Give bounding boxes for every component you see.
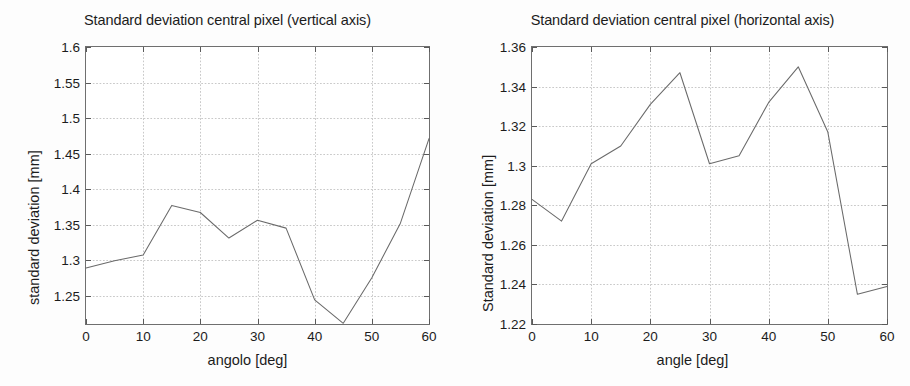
x-tick-label: 20 [643,329,658,344]
y-tick-label: 1.6 [61,40,80,55]
y-tick-label: 1.26 [500,237,526,252]
y-tick [532,324,537,325]
y-tick-label: 1.34 [500,79,526,94]
series-line [532,67,887,295]
chart-horizontal-axis: Standard deviation central pixel (horizo… [455,0,910,386]
plot-area-left: 1.251.31.351.41.451.51.551.6010203040506… [85,46,430,325]
y-tick-label: 1.3 [507,158,526,173]
y-tick-label: 1.28 [500,198,526,213]
y-tick-label: 1.24 [500,277,526,292]
chart-title-left: Standard deviation central pixel (vertic… [0,12,455,28]
y-tick-label: 1.55 [54,75,80,90]
plot-area-right: 1.221.241.261.281.31.321.341.36010203040… [531,46,888,325]
figure-page: Standard deviation central pixel (vertic… [0,0,910,386]
x-tick-label: 60 [421,329,436,344]
x-tick-label: 30 [250,329,265,344]
y-axis-title-left: standard deviation [mm] [26,150,42,305]
y-tick-label: 1.5 [61,111,80,126]
y-tick-label: 1.4 [61,182,80,197]
x-axis-title-right: angle [deg] [455,352,910,368]
x-tick [887,319,888,324]
y-tick-label: 1.22 [500,317,526,332]
x-tick-label: 40 [307,329,322,344]
y-tick-label: 1.36 [500,40,526,55]
x-tick-label: 30 [702,329,717,344]
x-tick-label: 0 [82,329,90,344]
x-tick-label: 50 [364,329,379,344]
x-tick-label: 40 [761,329,776,344]
x-tick-top [429,47,430,52]
y-axis-title-right: Standard deviation [mm] [480,155,496,312]
x-tick-label: 50 [820,329,835,344]
x-tick-label: 60 [879,329,894,344]
data-series [86,47,429,324]
y-tick-label: 1.3 [61,253,80,268]
x-tick-label: 20 [193,329,208,344]
x-axis-title-left: angolo [deg] [0,352,455,368]
y-tick-label: 1.35 [54,217,80,232]
x-tick-label: 10 [136,329,151,344]
y-tick-label: 1.25 [54,288,80,303]
x-tick [429,319,430,324]
chart-vertical-axis: Standard deviation central pixel (vertic… [0,0,455,386]
y-tick-right [882,324,887,325]
x-tick-label: 0 [528,329,536,344]
data-series [532,47,887,324]
y-tick-label: 1.32 [500,119,526,134]
chart-title-right: Standard deviation central pixel (horizo… [455,12,910,28]
y-tick-label: 1.45 [54,146,80,161]
series-line [86,139,429,324]
x-tick-top [887,47,888,52]
x-tick-label: 10 [584,329,599,344]
